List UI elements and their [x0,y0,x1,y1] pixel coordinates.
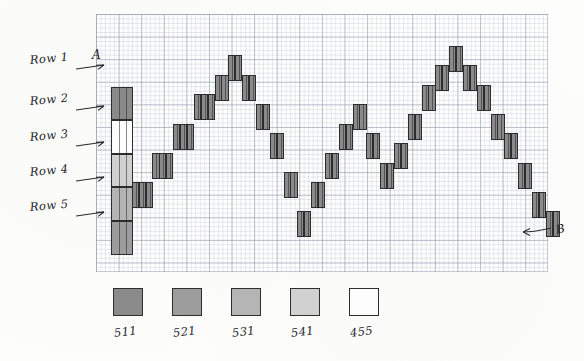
bar-hairline [267,105,268,129]
bar [166,153,173,179]
bar-hairline [156,154,157,178]
row-label-1: Row 1 [29,50,68,67]
bar-hairline [391,164,392,188]
column-divider [126,222,127,254]
bar-hairline [536,193,537,217]
bar-hairline [543,193,544,217]
bar-hairline [405,144,406,168]
column-divider [126,188,127,220]
bar-hairline [329,154,330,178]
bar-hairline [198,95,199,119]
row-label-4: Row 4 [29,162,68,179]
legend-label-521: 521 [172,323,197,340]
bar [146,182,153,208]
legend-label-531: 531 [231,323,256,340]
row-arrow-1 [76,62,106,72]
chart-canvas: Row 1Row 2Row 3Row 4Row 5 A B 5115215315… [0,0,584,361]
column-a-segment [111,120,133,154]
bar-hairline [177,125,178,149]
graph-paper-grid [96,14,548,272]
bar-hairline [384,164,385,188]
bar-hairline [184,125,185,149]
bar-hairline [150,183,151,207]
bar [359,104,366,130]
bar-hairline [336,154,337,178]
bar-hairline [501,115,502,139]
legend-swatch-455 [349,288,379,316]
bar-hairline [343,125,344,149]
column-divider [126,88,127,120]
bar-hairline [350,125,351,149]
bar-hairline [412,115,413,139]
bar-hairline [495,115,496,139]
row-label-5: Row 5 [29,197,68,214]
bar [525,163,532,189]
bar [249,75,256,101]
bar [332,153,339,179]
bar-hairline [301,212,302,236]
bar-hairline [474,66,475,90]
bar [277,133,284,159]
bar-hairline [446,66,447,90]
bar-hairline [522,164,523,188]
bar [304,211,311,237]
bar-hairline [170,154,171,178]
column-divider [119,155,120,187]
bar-hairline [260,105,261,129]
bar-hairline [253,76,254,100]
bar [511,133,518,159]
column-divider [126,155,127,187]
bar [373,133,380,159]
row-arrow-3 [76,139,106,149]
bar [290,172,297,198]
column-a-segment [111,187,133,221]
bar-hairline [246,76,247,100]
bar-hairline [439,66,440,90]
bar-hairline [205,95,206,119]
column-divider [119,121,120,153]
bar [415,114,422,140]
bar-hairline [315,183,316,207]
point-b-arrow [518,225,552,235]
point-b-label: B [554,221,566,237]
bar [187,124,194,150]
column-a-segment [111,154,133,188]
bar-hairline [281,134,282,158]
bar [484,85,491,111]
point-a-label: A [92,48,101,62]
column-divider [119,88,120,120]
bar-hairline [453,47,454,71]
bar-hairline [308,212,309,236]
bar-hairline [508,134,509,158]
row-arrow-5 [76,209,106,219]
column-divider [126,121,127,153]
bar-hairline [419,115,420,139]
legend-swatch-531 [231,288,261,316]
column-a-segment [111,221,133,255]
row-label-2: Row 2 [29,91,68,108]
bar-hairline [232,56,233,80]
bar [263,104,270,130]
legend-swatch-511 [113,288,143,316]
legend-label-511: 511 [113,323,138,340]
bar-hairline [294,173,295,197]
column-divider [119,222,120,254]
bar-hairline [481,86,482,110]
bar-hairline [239,56,240,80]
bar-hairline [322,183,323,207]
bar-hairline [274,134,275,158]
bar-hairline [212,95,213,119]
column-a-segment [111,87,133,121]
column-divider [119,188,120,220]
row-arrow-2 [76,103,106,113]
legend-label-455: 455 [349,323,374,340]
legend-swatch-521 [172,288,202,316]
bar-hairline [219,76,220,100]
row-arrow-4 [76,174,106,184]
bar-hairline [488,86,489,110]
bar-hairline [288,173,289,197]
legend-swatch-541 [290,288,320,316]
bar-hairline [515,134,516,158]
bar-hairline [426,86,427,110]
bar-hairline [398,144,399,168]
